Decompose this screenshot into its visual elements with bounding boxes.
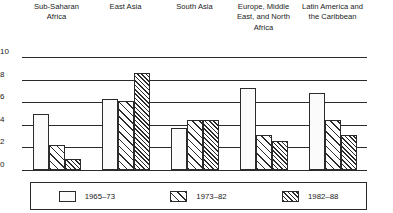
- bar-3-2: [272, 141, 288, 170]
- category-labels: Sub-Saharan Africa East Asia South Asia …: [22, 2, 367, 48]
- legend-label-1982-88: 1982–88: [308, 192, 338, 201]
- legend-label-1965-73: 1965–73: [85, 192, 115, 201]
- category-label-latin-america-caribbean: Latin America and the Caribbean: [298, 2, 367, 23]
- plot-area: [22, 57, 367, 170]
- bar-1-2: [134, 73, 150, 170]
- bar-chart: Sub-Saharan Africa East Asia South Asia …: [0, 0, 393, 213]
- y-tick-0: 0: [0, 161, 20, 169]
- y-tick-2: 2: [0, 138, 20, 146]
- bar-3-0: [240, 88, 256, 170]
- bar-2-0: [171, 128, 187, 170]
- bar-2-1: [187, 120, 203, 170]
- y-tick-8: 8: [0, 71, 20, 79]
- bar-0-0: [33, 114, 49, 171]
- legend-item-1965-73: 1965–73: [31, 191, 143, 202]
- bar-3-1: [256, 135, 272, 170]
- bar-2-2: [203, 120, 219, 170]
- category-label-east-asia: East Asia: [91, 2, 160, 12]
- bar-1-1: [118, 101, 134, 170]
- category-label-europe-middle-east-north-africa: Europe, Middle East, and North Africa: [229, 2, 298, 33]
- legend-swatch-1973-82: [170, 191, 187, 202]
- axis-baseline: [22, 170, 367, 171]
- bar-group-2: [160, 57, 229, 170]
- category-label-south-asia: South Asia: [160, 2, 229, 12]
- bar-0-2: [65, 159, 81, 170]
- bar-0-1: [49, 145, 65, 170]
- legend-label-1973-82: 1973–82: [196, 192, 226, 201]
- bar-4-1: [325, 120, 341, 170]
- bar-group-0: [22, 57, 91, 170]
- bar-groups: [22, 57, 367, 170]
- legend-item-1982-88: 1982–88: [254, 191, 366, 202]
- legend-item-1973-82: 1973–82: [143, 191, 255, 202]
- legend-swatch-1965-73: [59, 191, 76, 202]
- bar-4-2: [341, 135, 357, 170]
- y-tick-6: 6: [0, 93, 20, 101]
- bar-group-3: [229, 57, 298, 170]
- legend-swatch-1982-88: [282, 191, 299, 202]
- bar-group-4: [298, 57, 367, 170]
- bar-1-0: [102, 99, 118, 170]
- y-tick-4: 4: [0, 116, 20, 124]
- bar-group-1: [91, 57, 160, 170]
- category-label-sub-saharan-africa: Sub-Saharan Africa: [22, 2, 91, 23]
- bar-4-0: [309, 93, 325, 170]
- y-tick-10: 10: [0, 48, 20, 56]
- chart-legend: 1965–73 1973–82 1982–88: [30, 182, 367, 210]
